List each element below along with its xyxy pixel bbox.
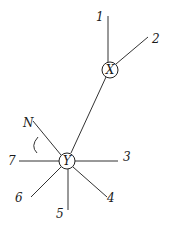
label-6: 6: [15, 191, 23, 205]
tree-diagram: X Y 1 2 3 4 5 6 7 N: [0, 0, 170, 226]
label-1: 1: [96, 10, 104, 24]
label-5: 5: [56, 207, 64, 221]
label-7: 7: [8, 154, 16, 168]
edge-x-y: [71, 77, 106, 153]
angle-arc: [34, 137, 38, 153]
label-3: 3: [123, 150, 131, 164]
label-2: 2: [151, 32, 160, 46]
node-x-label: X: [105, 63, 115, 77]
edge-2: [116, 37, 148, 64]
edge-6: [31, 167, 61, 197]
label-n: N: [22, 116, 34, 130]
edge-4: [73, 167, 107, 197]
node-y-label: Y: [63, 154, 72, 168]
label-4: 4: [106, 191, 115, 205]
